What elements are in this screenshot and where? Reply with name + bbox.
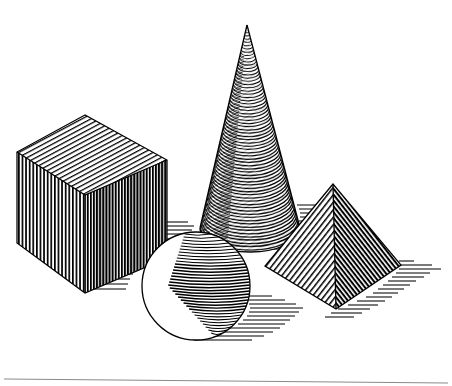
sphere-solid [142,232,250,340]
illustration-canvas [0,0,452,386]
geometric-solids-artwork [0,0,452,386]
